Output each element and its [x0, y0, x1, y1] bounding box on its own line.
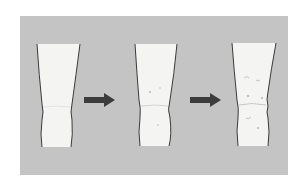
diagram-canvas [0, 0, 307, 194]
leg-stage-1 [37, 44, 80, 147]
arrow-right-icon [190, 93, 221, 107]
arrow-right-icon [84, 93, 115, 107]
leg-stage-3 [232, 43, 276, 146]
leg-stage-2 [135, 44, 177, 146]
